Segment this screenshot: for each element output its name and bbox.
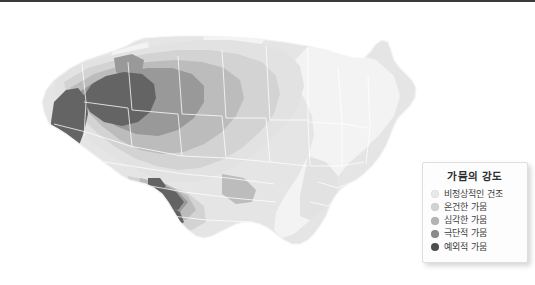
map-county-texture — [8, 6, 448, 278]
map-drought-layers — [8, 6, 448, 278]
legend-item-label: 심각한 가뭄 — [444, 215, 487, 226]
legend-item-label: 예외적 가뭄 — [444, 242, 487, 253]
legend-swatch-icon — [431, 203, 439, 211]
legend-item-list: 비정상적인 건조 온건한 가뭄 심각한 가뭄 극단적 가뭄 예외적 가뭄 — [429, 189, 521, 253]
legend-item-severe-drought[interactable]: 심각한 가뭄 — [429, 215, 521, 226]
legend-swatch-icon — [431, 190, 439, 198]
legend-swatch-icon — [431, 217, 439, 225]
legend-item-exceptional-drought[interactable]: 예외적 가뭄 — [429, 242, 521, 253]
drought-map-page: 가뭄의 강도 비정상적인 건조 온건한 가뭄 심각한 가뭄 극단적 가뭄 — [0, 0, 535, 285]
united-states-drought-map — [8, 6, 448, 278]
legend-item-extreme-drought[interactable]: 극단적 가뭄 — [429, 228, 521, 239]
map-stage: 가뭄의 강도 비정상적인 건조 온건한 가뭄 심각한 가뭄 극단적 가뭄 — [0, 2, 535, 285]
legend-item-label: 비정상적인 건조 — [444, 189, 503, 200]
legend-item-label: 온건한 가뭄 — [444, 202, 487, 213]
legend-item-moderate-drought[interactable]: 온건한 가뭄 — [429, 202, 521, 213]
legend-item-abnormally-dry[interactable]: 비정상적인 건조 — [429, 189, 521, 200]
legend-title: 가뭄의 강도 — [429, 171, 521, 183]
legend-swatch-icon — [431, 230, 439, 238]
legend-item-label: 극단적 가뭄 — [444, 228, 487, 239]
legend-swatch-icon — [431, 243, 439, 251]
drought-intensity-legend: 가뭄의 강도 비정상적인 건조 온건한 가뭄 심각한 가뭄 극단적 가뭄 — [422, 162, 528, 263]
